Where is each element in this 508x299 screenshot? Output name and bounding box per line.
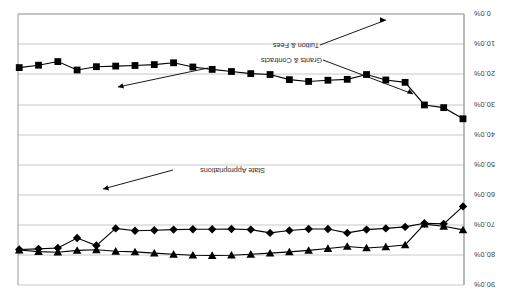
- y-tick-label-30: 30.0%: [474, 100, 508, 109]
- rotated-chart-wrapper: 90.0% 80.0% 70.0% 60.0% 50.0% 40.0% 30.0…: [0, 0, 508, 299]
- plot-area: [0, 0, 508, 299]
- gridlines: [18, 44, 464, 285]
- annotation-grants-contracts: Grants & Contracts: [261, 56, 322, 65]
- y-tick-label-80: 80.0%: [474, 250, 508, 259]
- y-tick-label-50: 50.0%: [474, 160, 508, 169]
- y-tick-label-0: 0.0%: [474, 9, 508, 18]
- series-state-appropriations: [16, 58, 467, 122]
- y-tick-label-10: 10.0%: [474, 39, 508, 48]
- axis-lines: [18, 14, 464, 285]
- annotation-state-appropriations: State Appropriations: [200, 166, 265, 175]
- line-chart: 90.0% 80.0% 70.0% 60.0% 50.0% 40.0% 30.0…: [0, 0, 508, 299]
- series-grants-contracts: [15, 220, 467, 259]
- series-layer: [15, 58, 467, 259]
- y-tick-label-40: 40.0%: [474, 130, 508, 139]
- y-tick-label-70: 70.0%: [474, 220, 508, 229]
- y-tick-label-60: 60.0%: [474, 190, 508, 199]
- y-tick-label-20: 20.0%: [474, 69, 508, 78]
- annotation-tuition-fees: Tuition & Fees: [273, 41, 319, 50]
- y-tick-label-90: 90.0%: [474, 280, 508, 289]
